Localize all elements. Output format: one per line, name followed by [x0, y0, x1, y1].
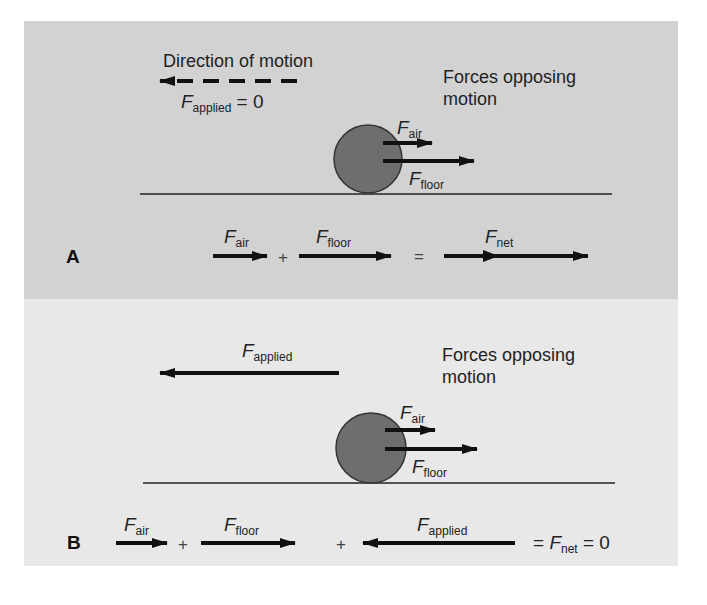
eq-a-net-arrow — [444, 250, 588, 262]
eq-b-applied-label: Fapplied — [417, 514, 467, 538]
subscript: air — [412, 412, 425, 426]
eq-b-air-label: Fair — [124, 514, 149, 538]
symbol: F — [397, 117, 409, 138]
eq-b-plus-1: + — [178, 535, 188, 555]
eq-b-result: = Fnet = 0 — [533, 532, 610, 556]
subscript: applied — [254, 350, 293, 364]
opposing-line-1: Forces opposing — [443, 66, 576, 88]
subscript: net — [561, 542, 578, 556]
symbol: F — [400, 402, 412, 423]
applied-subscript: applied — [193, 101, 232, 115]
direction-of-motion-label: Direction of motion — [163, 51, 313, 72]
subscript: air — [409, 127, 422, 141]
panel-letter-a: A — [66, 246, 80, 268]
applied-force-label: Fapplied — [242, 340, 292, 364]
panel-letter-b: B — [67, 532, 81, 554]
zero-suffix: = 0 — [578, 532, 610, 553]
diagram-shapes — [0, 0, 707, 605]
eq-a-equals: = — [414, 247, 424, 267]
ball-b-floor-label: Ffloor — [412, 456, 447, 480]
eq-b-plus-2: + — [336, 535, 346, 555]
eq-a-plus: + — [278, 248, 288, 268]
opposing-forces-label-a: Forces opposing motion — [443, 66, 576, 110]
applied-zero-suffix: = 0 — [231, 91, 263, 112]
applied-zero-label: Fapplied = 0 — [181, 91, 264, 115]
opposing-line-2: motion — [442, 366, 575, 388]
subscript: floor — [236, 524, 259, 538]
ball-b-air-label: Fair — [400, 402, 425, 426]
subscript: floor — [328, 236, 351, 250]
ball-a-air-label: Fair — [397, 117, 422, 141]
equals-prefix: = — [533, 532, 549, 553]
ball-a-floor-label: Ffloor — [409, 168, 444, 192]
symbol: F — [549, 532, 561, 553]
eq-a-air-label: Fair — [224, 226, 249, 250]
subscript: air — [236, 236, 249, 250]
symbol: F — [485, 226, 497, 247]
symbol: F — [224, 514, 236, 535]
symbol: F — [316, 226, 328, 247]
eq-a-net-label: Fnet — [485, 226, 513, 250]
subscript: applied — [429, 524, 468, 538]
symbol: F — [417, 514, 429, 535]
opposing-line-1: Forces opposing — [442, 344, 575, 366]
symbol: F — [224, 226, 236, 247]
subscript: net — [497, 236, 514, 250]
subscript: floor — [421, 178, 444, 192]
subscript: air — [136, 524, 149, 538]
applied-symbol: F — [181, 91, 193, 112]
eq-a-floor-label: Ffloor — [316, 226, 351, 250]
opposing-line-2: motion — [443, 88, 576, 110]
symbol: F — [124, 514, 136, 535]
symbol: F — [242, 340, 254, 361]
opposing-forces-label-b: Forces opposing motion — [442, 344, 575, 388]
eq-b-floor-label: Ffloor — [224, 514, 259, 538]
symbol: F — [412, 456, 424, 477]
subscript: floor — [424, 466, 447, 480]
symbol: F — [409, 168, 421, 189]
